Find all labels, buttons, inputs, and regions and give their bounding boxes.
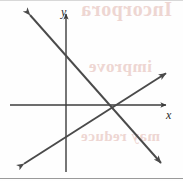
figure-bottom-border [0,178,183,179]
ascending-line [24,73,166,163]
figure-container: Incorpora improve may reduce y x [0,0,183,181]
x-axis-label: x [166,109,171,121]
y-axis-label: y [61,6,66,18]
coordinate-plane-graphic [0,0,183,181]
